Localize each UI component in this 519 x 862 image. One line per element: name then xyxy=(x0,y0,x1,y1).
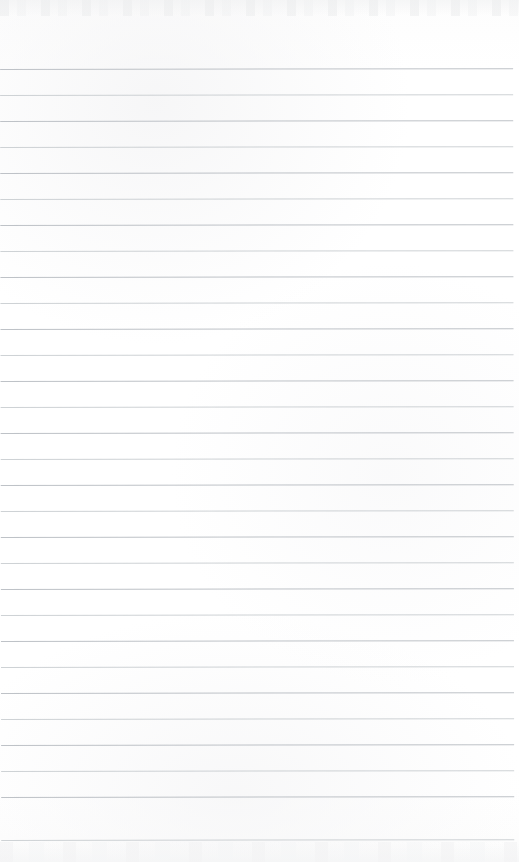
rule-line xyxy=(1,588,514,590)
rule-line xyxy=(0,250,513,252)
rule-line xyxy=(0,68,513,70)
ruled-line-stack xyxy=(0,0,519,862)
rule-line xyxy=(1,510,514,512)
rule-line xyxy=(1,796,514,798)
rule-line xyxy=(0,146,513,148)
rule-line xyxy=(0,94,513,96)
rule-line xyxy=(0,198,513,200)
rule-line xyxy=(1,432,514,434)
rule-line xyxy=(1,614,514,616)
rule-line xyxy=(0,120,513,122)
rule-line xyxy=(1,640,514,642)
rule-line xyxy=(1,484,514,486)
rule-line xyxy=(1,406,514,408)
rule-line xyxy=(0,328,513,330)
rule-line xyxy=(1,354,514,356)
rule-line xyxy=(1,536,514,538)
rule-line xyxy=(1,692,514,694)
rule-line xyxy=(1,718,514,720)
rule-line xyxy=(1,666,514,668)
rule-line xyxy=(0,276,513,278)
rule-line xyxy=(0,172,513,174)
scanned-notebook-page xyxy=(0,0,519,862)
rule-line xyxy=(0,224,513,226)
rule-line xyxy=(1,744,514,746)
rule-line xyxy=(1,458,514,460)
rule-line xyxy=(1,380,514,382)
rule-line xyxy=(1,839,514,841)
rule-line xyxy=(0,302,513,304)
rule-line xyxy=(1,770,514,772)
rule-line xyxy=(1,562,514,564)
